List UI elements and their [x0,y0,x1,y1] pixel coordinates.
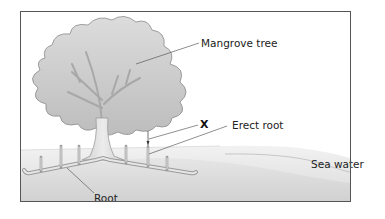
diagram-canvas: Mangrove tree X Erect root Sea water Roo… [0,0,385,219]
label-x-marker: X [200,118,209,131]
mangrove-diagram: Mangrove tree X Erect root Sea water Roo… [0,0,385,219]
label-erect-root: Erect root [232,119,283,131]
label-root: Root [94,192,118,204]
label-mangrove-tree: Mangrove tree [201,37,277,49]
label-sea-water: Sea water [311,158,364,170]
